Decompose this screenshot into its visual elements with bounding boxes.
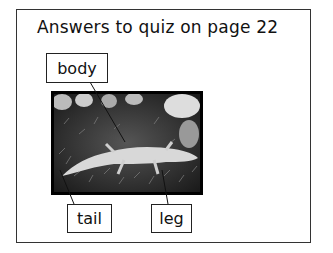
label-leg: leg: [151, 204, 192, 233]
lizard-image: [54, 94, 200, 192]
label-body: body: [46, 53, 108, 83]
page-title: Answers to quiz on page 22: [37, 17, 278, 37]
label-tail: tail: [67, 204, 112, 233]
lizard-photo: [51, 91, 203, 195]
